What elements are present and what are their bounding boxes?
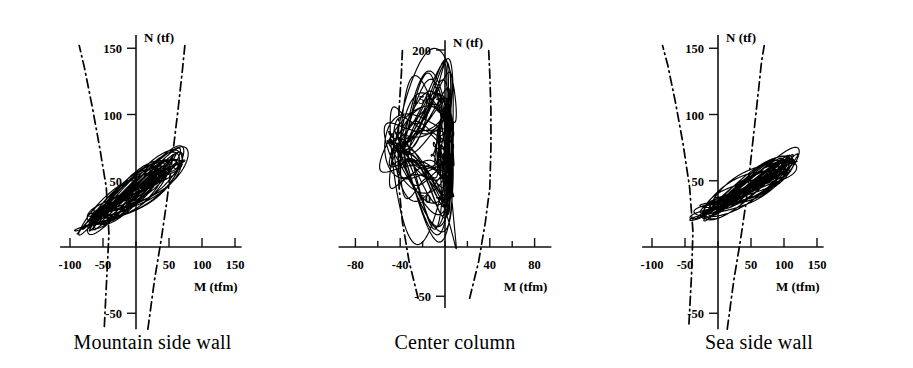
y-tick-label: 150 [685, 42, 704, 56]
panel-mountain-side-wall: -100-5050100150-5050100150M (tfm)N (tf) … [0, 0, 305, 368]
y-axis-label: N (tf) [144, 30, 174, 45]
hysteresis-figure: -100-5050100150-5050100150M (tfm)N (tf) … [0, 0, 913, 368]
x-tick-label: 40 [484, 258, 497, 272]
y-tick-label: 150 [103, 42, 122, 56]
x-tick-label: -40 [392, 258, 409, 272]
x-tick-label: -100 [641, 258, 664, 272]
panel-center-column: -80-404080-5050150200M (tfm)N (tf) Cente… [305, 0, 605, 368]
panel-caption-center-column: Center column [305, 331, 605, 354]
interaction-envelope-curve [79, 46, 109, 327]
x-tick-label: 50 [745, 258, 758, 272]
x-axis-label: M (tfm) [776, 279, 820, 294]
y-tick-label: 50 [692, 175, 705, 189]
x-tick-label: 100 [193, 258, 212, 272]
y-tick-label: 100 [685, 109, 704, 123]
plot-sea-side-wall: -100-5050100150-5050100150M (tfm)N (tf) [605, 0, 913, 368]
interaction-envelope-curve [663, 46, 693, 324]
panel-sea-side-wall: -100-5050100150-5050100150M (tfm)N (tf) … [605, 0, 913, 368]
x-tick-label: 50 [163, 258, 176, 272]
y-axis-label: N (tf) [453, 35, 483, 50]
hysteresis-orbit-curve [75, 146, 189, 235]
x-axis-label: M (tfm) [504, 279, 548, 294]
plot-mountain-side-wall: -100-5050100150-5050100150M (tfm)N (tf) [0, 0, 305, 368]
panel-caption-sea-side-wall: Sea side wall [605, 331, 913, 354]
y-axis-label: N (tf) [726, 30, 756, 45]
x-tick-label: -50 [677, 258, 694, 272]
x-tick-label: 80 [528, 258, 541, 272]
x-tick-label: 100 [775, 258, 794, 272]
x-tick-label: -80 [347, 258, 364, 272]
x-tick-label: -50 [95, 258, 112, 272]
x-axis-label: M (tfm) [194, 279, 238, 294]
y-tick-label: -50 [105, 307, 122, 321]
plot-center-column: -80-404080-5050150200M (tfm)N (tf) [305, 0, 605, 368]
y-tick-label: 100 [103, 109, 122, 123]
x-tick-label: 150 [226, 258, 245, 272]
x-tick-label: 150 [808, 258, 827, 272]
panel-caption-mountain-side-wall: Mountain side wall [0, 331, 305, 354]
x-tick-label: -100 [59, 258, 82, 272]
